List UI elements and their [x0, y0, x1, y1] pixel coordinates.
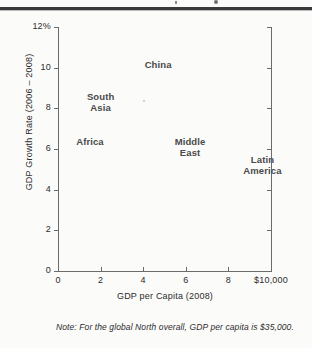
x-axis-tick-label: 8	[226, 275, 231, 285]
scan-artifact-speck-plot	[143, 100, 145, 102]
y-axis-tick	[54, 230, 58, 231]
x-axis-tick-label: 2	[98, 275, 103, 285]
x-axis-tick-label: $10,000	[254, 275, 288, 285]
y-axis-tick	[54, 149, 58, 150]
y-axis-tick-label: 4	[46, 184, 51, 194]
y-axis-tick-label: 12%	[32, 21, 51, 31]
y-axis-tick-label: 10	[41, 62, 51, 72]
data-point-label: Middle East	[175, 136, 206, 158]
chart-figure: 024681012% GDP Growth Rate (2006 – 2008)…	[0, 0, 312, 348]
right-axis-tick	[267, 108, 271, 109]
y-axis-tick-label: 2	[46, 224, 51, 234]
x-axis-line	[58, 271, 272, 272]
chart-footnote: Note: For the global North overall, GDP …	[56, 322, 310, 332]
right-axis-tick	[267, 68, 271, 69]
data-point-label: South Asia	[87, 91, 114, 113]
y-axis-tick-label: 0	[46, 265, 51, 275]
y-axis-line	[58, 27, 59, 272]
x-axis-tick-label: 0	[55, 275, 60, 285]
y-axis-tick-label: 8	[46, 102, 51, 112]
x-axis-tick	[186, 267, 187, 272]
right-axis-tick	[267, 149, 271, 150]
x-axis-title: GDP per Capita (2008)	[58, 291, 272, 301]
x-axis-tick	[101, 267, 102, 272]
y-axis-tick-label: 6	[46, 143, 51, 153]
right-axis-tick	[267, 190, 271, 191]
y-axis-tick	[54, 27, 58, 28]
x-axis-tick	[228, 267, 229, 272]
x-axis-tick	[143, 267, 144, 272]
data-point-label: China	[145, 58, 172, 69]
right-axis-tick	[267, 230, 271, 231]
x-axis-tick-label: 6	[183, 275, 188, 285]
y-axis-tick	[54, 108, 58, 109]
x-axis-tick-label: 4	[141, 275, 146, 285]
scan-artifact-speck	[175, 1, 177, 4]
y-axis-title: GDP Growth Rate (2006 – 2008)	[24, 17, 34, 227]
data-point-label: Latin America	[243, 154, 281, 176]
right-axis-line	[271, 27, 272, 272]
right-axis-tick	[267, 27, 271, 28]
scan-artifact-dot	[214, 0, 218, 4]
plot-area: ChinaSouth AsiaAfricaMiddle EastLatin Am…	[58, 27, 272, 272]
data-point-label: Africa	[76, 135, 104, 146]
x-axis-tick-labels: 02468$10,000	[0, 275, 312, 289]
y-axis-tick	[54, 68, 58, 69]
y-axis-tick	[54, 190, 58, 191]
page-header-rule-shadow	[0, 10, 312, 11]
x-axis-tick	[271, 267, 272, 272]
x-axis-tick	[58, 267, 59, 272]
